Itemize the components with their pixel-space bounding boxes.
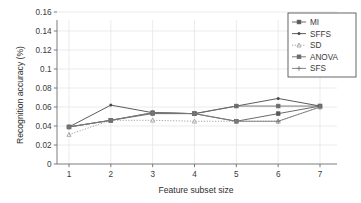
marker-square <box>234 104 238 108</box>
x-tick-label: 5 <box>234 170 239 179</box>
legend-label: SFS <box>310 64 326 73</box>
y-tick-label: 0.14 <box>36 27 52 36</box>
y-tick-label: 0.1 <box>40 65 52 74</box>
y-tick-label: 0.04 <box>36 122 52 131</box>
marker-square <box>297 20 301 24</box>
x-tick-label: 3 <box>150 170 155 179</box>
x-tick-label: 4 <box>192 170 197 179</box>
legend-label: SD <box>310 41 321 50</box>
legend-label: MI <box>310 18 319 27</box>
tick-labels: 00.020.040.060.080.10.120.140.161234567 <box>36 8 323 179</box>
marker-square <box>276 104 280 108</box>
y-tick-label: 0.08 <box>36 84 52 93</box>
x-tick-label: 7 <box>318 170 323 179</box>
y-axis-title: Recognition accuracy (%) <box>15 46 25 144</box>
legend-label: SFFS <box>310 30 331 39</box>
marker-square <box>276 112 280 116</box>
chart-figure: 00.020.040.060.080.10.120.140.161234567 … <box>0 0 361 203</box>
x-axis-title: Feature subset size <box>159 185 234 195</box>
y-tick-label: 0.06 <box>36 103 52 112</box>
marker-dot <box>277 97 280 100</box>
x-tick-label: 1 <box>67 170 72 179</box>
marker-dot <box>109 104 112 107</box>
x-tick-label: 6 <box>276 170 281 179</box>
legend-label: ANOVA <box>310 53 339 62</box>
x-tick-label: 2 <box>109 170 114 179</box>
y-tick-label: 0.12 <box>36 46 52 55</box>
chart-legend: MISFFSSDANOVASFS <box>288 13 356 77</box>
y-tick-label: 0.16 <box>36 8 52 17</box>
y-tick-label: 0 <box>47 160 52 169</box>
line-chart: 00.020.040.060.080.10.120.140.161234567 … <box>0 0 361 203</box>
marker-dot <box>298 32 301 35</box>
marker-square <box>297 55 301 59</box>
y-tick-label: 0.02 <box>36 141 52 150</box>
